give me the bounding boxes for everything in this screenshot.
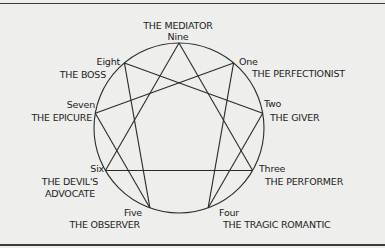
title-seven: THE EPICURE [5,112,92,123]
number-one: One [239,56,258,67]
title-one: THE PERFECTIONIST [252,68,345,79]
number-two: Two [264,98,281,109]
number-seven: Seven [45,99,95,110]
title-four: THE TRAGIC ROMANTIC [223,219,330,230]
number-four: Four [219,207,239,218]
number-nine: Nine [158,31,198,42]
number-eight: Eight [80,56,120,67]
number-five: Five [100,207,142,218]
title-three: THE PERFORMER [265,176,343,187]
enneagram-circle [94,43,264,213]
title-five: THE OBSERVER [40,219,140,230]
title-two: THE GIVER [270,112,319,123]
title-eight: THE BOSS [40,69,106,80]
number-six: Six [60,163,104,174]
title-six-line2: ADVOCATE [30,188,110,199]
title-nine: THE MEDIATOR [128,20,228,31]
title-six-line1: THE DEVIL'S [30,176,110,187]
number-three: Three [259,163,285,174]
